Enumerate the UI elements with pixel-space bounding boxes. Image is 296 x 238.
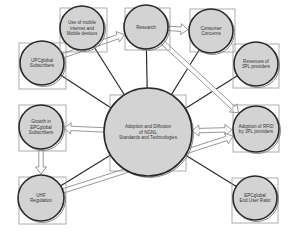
- node-consumer: ConsumerConcerns: [189, 9, 235, 55]
- arrow-center-growth: [64, 123, 104, 134]
- node-label: by 3PL providers: [239, 129, 274, 134]
- node-label: Research: [136, 25, 156, 30]
- node-rfid: Adoption of RFIDby 3PL providers: [233, 105, 281, 154]
- node-label: Consumer: [200, 26, 222, 31]
- node-enduser: EPCglobalEnd User Ratio: [232, 176, 279, 223]
- node-research: Research: [124, 5, 170, 51]
- node-label: Regulation: [30, 198, 52, 203]
- node-label: Revenues of: [243, 59, 270, 64]
- nodes-layer: UPCglobalSubscribersUse of mobileinterne…: [18, 5, 281, 224]
- node-label: End User Ratio: [239, 198, 271, 203]
- diagram-canvas: UPCglobalSubscribersUse of mobileinterne…: [0, 0, 296, 238]
- node-label: Subscribers: [30, 63, 55, 68]
- node-label: Use of mobile: [68, 20, 97, 25]
- node-label: 3PL providers: [242, 64, 271, 69]
- node-label: UPCglobal: [31, 58, 53, 63]
- node-center: Adoption and Diffusionof NGNLStandards a…: [104, 88, 194, 178]
- node-label: UHF: [36, 193, 46, 198]
- node-label: Mobile devices: [67, 31, 98, 36]
- node-label: internet and: [70, 26, 95, 31]
- node-label: Adoption of RFID: [238, 124, 274, 129]
- arrow-growth-uhf: [36, 149, 47, 174]
- node-label: Subscribers: [29, 130, 54, 135]
- node-label: Adoption and Diffusion: [125, 124, 172, 129]
- node-label: of NGNL: [139, 130, 157, 135]
- node-uhf: UHFRegulation: [18, 175, 66, 224]
- node-label: Growth in: [31, 119, 51, 124]
- node-revenues: Revenues of3PL providers: [233, 42, 280, 88]
- node-upcglobal: UPCglobalSubscribers: [19, 41, 66, 89]
- arrow-research-consumer: [168, 24, 188, 35]
- node-growth: Growth inEPCglobalSubscribers: [19, 105, 66, 151]
- node-label: EPCglobal: [244, 193, 266, 198]
- node-label: Concerns: [201, 31, 221, 36]
- node-label: EPCglobal: [30, 125, 52, 130]
- node-label: Standards and Technologies: [119, 135, 178, 140]
